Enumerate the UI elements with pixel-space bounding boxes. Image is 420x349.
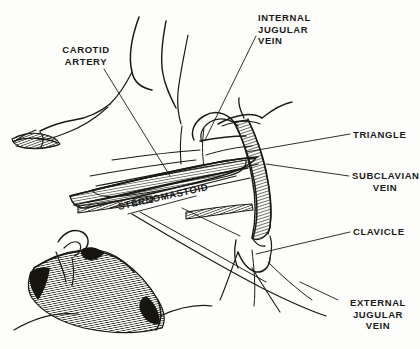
label-carotid-artery: CAROTIDARTERY bbox=[38, 44, 134, 67]
label-carotid-artery-line1: CAROTID bbox=[62, 44, 109, 55]
label-external-jugular-vein-line1: EXTERNAL bbox=[350, 297, 406, 308]
label-subclavian-vein-line2: VEIN bbox=[352, 182, 418, 194]
label-external-jugular-vein-line3: VEIN bbox=[366, 320, 391, 331]
label-external-jugular-vein-line2: JUGULAR bbox=[353, 309, 403, 320]
label-clavicle: CLAVICLE bbox=[353, 226, 405, 238]
label-subclavian-vein: SUBCLAVIANVEIN bbox=[352, 170, 418, 193]
label-triangle: TRIANGLE bbox=[353, 129, 406, 141]
label-internal-jugular-vein: INTERNALJUGULARVEIN bbox=[258, 12, 358, 47]
label-internal-jugular-vein-line2: JUGULAR bbox=[258, 24, 308, 35]
label-carotid-artery-line2: ARTERY bbox=[65, 56, 107, 67]
label-internal-jugular-vein-line1: INTERNAL bbox=[258, 12, 311, 23]
anatomy-diagram-page: CAROTIDARTERY INTERNALJUGULARVEIN TRIANG… bbox=[0, 0, 420, 349]
label-subclavian-vein-line1: SUBCLAVIAN bbox=[352, 170, 420, 181]
label-internal-jugular-vein-line3: VEIN bbox=[258, 35, 283, 46]
label-external-jugular-vein: EXTERNALJUGULARVEIN bbox=[341, 297, 415, 332]
